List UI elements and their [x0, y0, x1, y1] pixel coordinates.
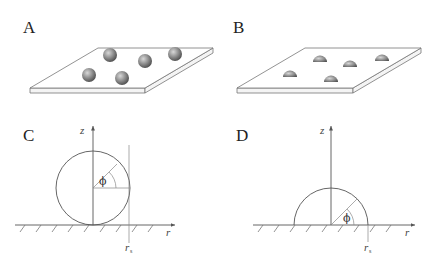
panel-d: D ϕ z r r s [236, 124, 415, 254]
panel-label-a: A [23, 18, 36, 37]
angle-label-d: ϕ [343, 212, 351, 225]
figure: A B C [0, 0, 433, 264]
angle-label-c: ϕ [99, 175, 107, 188]
panel-label-c: C [23, 126, 34, 145]
ground-c [15, 225, 175, 232]
panel-label-b: B [233, 18, 244, 37]
z-label-d: z [319, 124, 325, 136]
angle-arc-c [109, 172, 116, 188]
z-label-c: z [79, 124, 85, 136]
svg-text:s: s [369, 248, 372, 254]
r-label-d: r [405, 226, 410, 238]
panel-a: A [23, 18, 213, 93]
svg-text:s: s [130, 248, 133, 254]
plate-b [237, 48, 421, 93]
panel-b: B [233, 18, 421, 93]
panel-c: C ϕ z r r s [15, 124, 175, 254]
panel-label-d: D [236, 126, 248, 145]
plate-a [30, 48, 213, 93]
ground-d [253, 225, 415, 232]
r-label-c: r [166, 226, 171, 238]
